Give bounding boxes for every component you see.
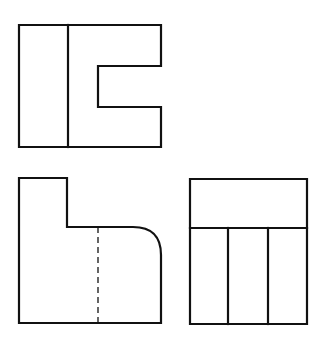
side-view-outline bbox=[190, 179, 307, 324]
front-view-outline bbox=[19, 178, 161, 323]
top-view bbox=[19, 25, 161, 147]
front-view bbox=[19, 178, 161, 323]
top-view-outline bbox=[19, 25, 161, 147]
orthographic-drawing bbox=[0, 0, 326, 359]
side-view bbox=[190, 179, 307, 324]
